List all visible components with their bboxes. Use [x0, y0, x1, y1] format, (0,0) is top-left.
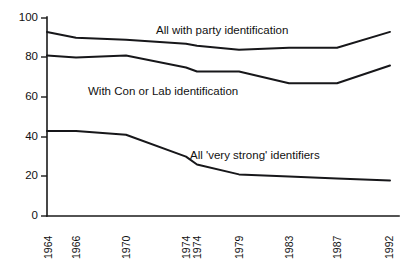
y-tick-label-100: 100 — [19, 11, 38, 23]
line-chart-svg: 100 80 60 40 20 0 1964 1966 1970 1974 19… — [0, 0, 410, 265]
y-tick-label-0: 0 — [32, 209, 38, 221]
annotation-very-strong-identifiers: All 'very strong' identifiers — [190, 149, 320, 161]
y-tick-label-60: 60 — [25, 90, 38, 102]
annotation-all-party-identification: All with party identification — [156, 24, 288, 36]
annotation-con-or-lab-identification: With Con or Lab identification — [88, 85, 238, 97]
chart-container: 100 80 60 40 20 0 1964 1966 1970 1974 19… — [0, 0, 410, 265]
x-tick-label-1979: 1979 — [233, 235, 245, 259]
y-tick-label-20: 20 — [25, 169, 38, 181]
y-tick-label-80: 80 — [25, 50, 38, 62]
x-tick-label-1964: 1964 — [42, 235, 54, 259]
x-tick-label-1974b: 1974 — [191, 235, 203, 259]
x-axis-tick-labels: 1964 1966 1970 1974 1974 1979 1983 1987 … — [42, 235, 395, 259]
x-tick-label-1992: 1992 — [383, 235, 395, 259]
y-axis-tick-labels: 100 80 60 40 20 0 — [19, 11, 38, 221]
x-tick-label-1970: 1970 — [120, 235, 132, 259]
series-line-con-or-lab — [47, 56, 390, 84]
x-tick-label-1966: 1966 — [70, 235, 82, 259]
x-tick-label-1987: 1987 — [331, 235, 343, 259]
x-tick-label-1983: 1983 — [283, 235, 295, 259]
y-tick-label-40: 40 — [25, 130, 38, 142]
y-axis-ticks — [41, 18, 47, 216]
